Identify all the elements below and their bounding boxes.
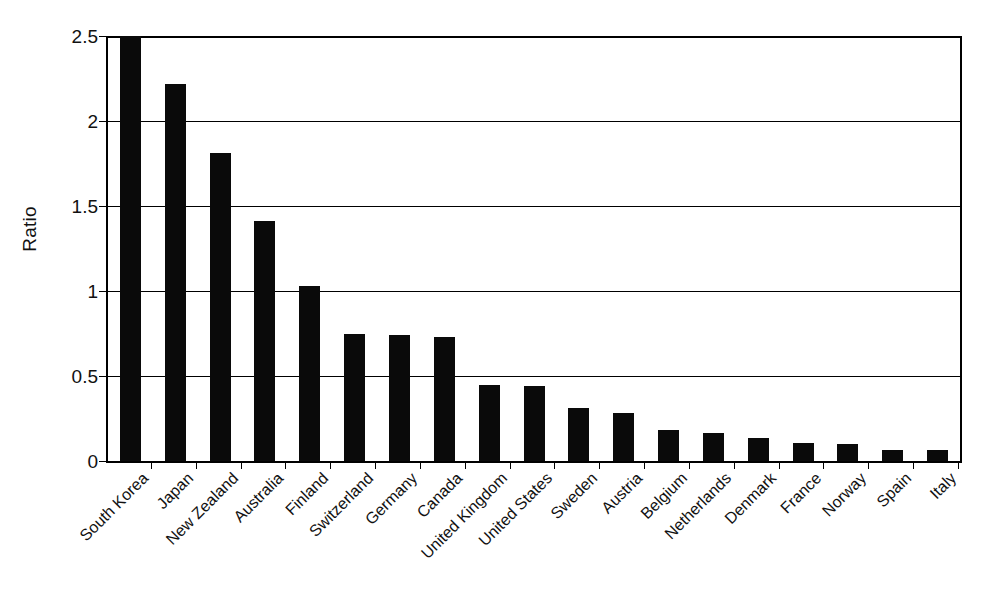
- x-axis-tickmark: [510, 461, 511, 469]
- bar: [748, 438, 769, 461]
- bar: [658, 430, 679, 461]
- bar: [703, 433, 724, 461]
- y-axis-tick-labels: 00.511.522.5: [38, 0, 98, 595]
- bar: [210, 153, 231, 461]
- x-axis-tickmark: [420, 461, 421, 469]
- y-axis-tick-label: 2: [44, 112, 98, 131]
- bar: [524, 386, 545, 461]
- bar: [299, 286, 320, 461]
- bar: [434, 337, 455, 461]
- bar: [568, 408, 589, 461]
- x-axis-tickmark: [823, 461, 824, 469]
- bar-chart: Ratio 00.511.522.5 South KoreaJapanNew Z…: [0, 0, 1000, 595]
- x-axis-tickmark: [913, 461, 914, 469]
- x-axis-category-label: Spain: [874, 470, 914, 510]
- y-axis-tickmark: [99, 206, 108, 207]
- x-axis-tickmark: [958, 461, 959, 469]
- x-axis-category-label: Norway: [820, 470, 870, 520]
- x-axis-tickmark: [779, 461, 780, 469]
- x-axis-category-label-text: Spain: [874, 470, 914, 510]
- y-axis-tick-label: 2.5: [44, 27, 98, 46]
- x-axis-category-label: Sweden: [548, 470, 600, 522]
- bar: [479, 385, 500, 462]
- x-axis-tickmark: [734, 461, 735, 469]
- x-axis-category-label-text: France: [778, 470, 825, 517]
- bar: [389, 335, 410, 461]
- bar: [793, 443, 814, 461]
- y-axis-tick-label: 1.5: [44, 197, 98, 216]
- x-axis-category-labels: South KoreaJapanNew ZealandAustraliaFinl…: [106, 470, 958, 595]
- y-axis-tick-label: 0.5: [44, 367, 98, 386]
- x-axis-category-label-text: Italy: [927, 470, 959, 502]
- x-axis-category-label: Japan: [154, 470, 196, 512]
- x-axis-tickmark: [465, 461, 466, 469]
- x-axis-category-label: Italy: [927, 470, 959, 502]
- bar: [613, 413, 634, 461]
- bar: [882, 450, 903, 461]
- bar: [927, 450, 948, 461]
- x-axis-tickmark: [599, 461, 600, 469]
- x-axis-tickmark: [868, 461, 869, 469]
- x-axis-tickmark: [644, 461, 645, 469]
- x-axis-tickmarks: [106, 461, 958, 470]
- y-axis-tick-label: 1: [44, 282, 98, 301]
- x-axis-tickmark: [151, 461, 152, 469]
- x-axis-tickmark: [285, 461, 286, 469]
- bar: [837, 444, 858, 461]
- bar: [120, 36, 141, 461]
- x-axis-tickmark: [375, 461, 376, 469]
- y-axis-tick-label: 0: [44, 452, 98, 471]
- x-axis-tickmark: [241, 461, 242, 469]
- bar: [254, 221, 275, 461]
- x-axis-category-label: France: [778, 470, 825, 517]
- bar: [344, 334, 365, 462]
- y-axis-tickmark: [99, 121, 108, 122]
- x-axis-tickmark: [196, 461, 197, 469]
- bar: [165, 84, 186, 461]
- x-axis-category-label-text: Norway: [820, 470, 870, 520]
- x-axis-tickmark: [554, 461, 555, 469]
- y-axis-tickmark: [99, 36, 108, 37]
- plot-area: [106, 36, 962, 463]
- x-axis-tickmark: [330, 461, 331, 469]
- y-axis-tickmark: [99, 291, 108, 292]
- x-axis-category-label-text: Japan: [154, 470, 196, 512]
- x-axis-tickmark: [689, 461, 690, 469]
- bars: [108, 36, 960, 461]
- y-axis-tickmark: [99, 376, 108, 377]
- x-axis-category-label-text: Sweden: [548, 470, 600, 522]
